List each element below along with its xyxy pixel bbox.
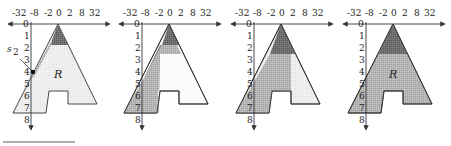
svg-text:0: 0 [23, 19, 29, 29]
x-tick-labels: -32 -8 -2 0 2 8 32 [12, 8, 100, 18]
panel-1: -32 -8 -2 0 2 8 32 0 1 2 3 4 5 6 7 8 R s… [3, 8, 108, 142]
svg-text:7: 7 [359, 103, 365, 113]
panel-2: -32 -8 -2 0 2 8 32 0 1 2 3 4 5 6 7 8 [119, 8, 219, 128]
svg-text:2: 2 [13, 47, 19, 57]
svg-text:-2: -2 [379, 8, 388, 18]
svg-text:5: 5 [24, 79, 30, 89]
svg-text:0: 0 [56, 8, 62, 18]
svg-text:-32: -32 [235, 8, 250, 18]
svg-text:6: 6 [24, 91, 30, 101]
x-tick-labels: -32 -8 -2 0 2 8 32 [123, 8, 211, 18]
svg-text:2: 2 [247, 43, 253, 53]
svg-text:0: 0 [391, 8, 397, 18]
panel-4: -32 -8 -2 0 2 8 32 0 1 2 3 4 5 6 7 8 R [343, 8, 443, 128]
svg-text:2: 2 [178, 8, 184, 18]
x-tick-labels: -32 -8 -2 0 2 8 32 [347, 8, 435, 18]
svg-text:2: 2 [67, 8, 73, 18]
svg-text:0: 0 [246, 19, 252, 29]
svg-text:2: 2 [290, 8, 296, 18]
panel-3: -32 -8 -2 0 2 8 32 0 1 2 3 4 5 6 7 8 [231, 8, 331, 128]
svg-text:0: 0 [167, 8, 173, 18]
svg-text:5: 5 [135, 79, 141, 89]
svg-text:8: 8 [414, 8, 420, 18]
region-label: R [53, 68, 62, 81]
svg-text:5: 5 [359, 79, 365, 89]
svg-text:-8: -8 [141, 8, 150, 18]
y-tick-labels: 0 1 2 3 4 5 6 7 8 [23, 19, 30, 125]
svg-text:-8: -8 [365, 8, 374, 18]
dark-apex-band [379, 24, 407, 54]
svg-text:32: 32 [424, 8, 435, 18]
svg-text:7: 7 [24, 103, 30, 113]
svg-text:1: 1 [135, 31, 141, 41]
svg-text:4: 4 [247, 67, 253, 77]
svg-text:3: 3 [135, 55, 141, 65]
y-tick-labels: 0 1 2 3 4 5 6 7 8 [246, 19, 253, 125]
svg-text:8: 8 [24, 115, 30, 125]
svg-text:-2: -2 [44, 8, 53, 18]
svg-text:0: 0 [358, 19, 364, 29]
point-s2-label: s 2 [7, 44, 19, 57]
figure-canvas: -32 -8 -2 0 2 8 32 0 1 2 3 4 5 6 7 8 R s… [0, 0, 451, 146]
svg-text:2: 2 [135, 43, 141, 53]
svg-text:32: 32 [312, 8, 323, 18]
svg-text:-8: -8 [30, 8, 39, 18]
svg-text:4: 4 [359, 67, 365, 77]
svg-text:6: 6 [359, 91, 365, 101]
x-tick-labels: -32 -8 -2 0 2 8 32 [235, 8, 323, 18]
svg-text:1: 1 [359, 31, 365, 41]
svg-text:-32: -32 [12, 8, 27, 18]
svg-text:32: 32 [89, 8, 100, 18]
svg-text:s: s [7, 44, 12, 54]
svg-text:1: 1 [24, 31, 30, 41]
y-tick-labels: 0 1 2 3 4 5 6 7 8 [134, 19, 141, 125]
svg-text:6: 6 [247, 91, 253, 101]
svg-text:-32: -32 [123, 8, 138, 18]
svg-text:8: 8 [302, 8, 308, 18]
svg-text:4: 4 [135, 67, 141, 77]
region-label: R [388, 68, 397, 81]
svg-text:8: 8 [79, 8, 85, 18]
svg-text:5: 5 [247, 79, 253, 89]
svg-text:2: 2 [359, 43, 365, 53]
svg-text:8: 8 [247, 115, 253, 125]
svg-text:8: 8 [190, 8, 196, 18]
svg-text:6: 6 [135, 91, 141, 101]
point-s2 [31, 70, 35, 74]
svg-text:1: 1 [247, 31, 253, 41]
y-tick-labels: 0 1 2 3 4 5 6 7 8 [358, 19, 365, 125]
svg-text:0: 0 [279, 8, 285, 18]
svg-text:7: 7 [135, 103, 141, 113]
svg-text:0: 0 [134, 19, 140, 29]
svg-text:8: 8 [359, 115, 365, 125]
svg-text:2: 2 [402, 8, 408, 18]
svg-text:-8: -8 [253, 8, 262, 18]
svg-text:8: 8 [135, 115, 141, 125]
svg-text:2: 2 [24, 43, 30, 53]
svg-text:-32: -32 [347, 8, 362, 18]
svg-text:3: 3 [247, 55, 253, 65]
svg-text:32: 32 [200, 8, 211, 18]
svg-text:7: 7 [247, 103, 253, 113]
svg-text:-2: -2 [155, 8, 164, 18]
svg-text:-2: -2 [267, 8, 276, 18]
svg-text:3: 3 [359, 55, 365, 65]
